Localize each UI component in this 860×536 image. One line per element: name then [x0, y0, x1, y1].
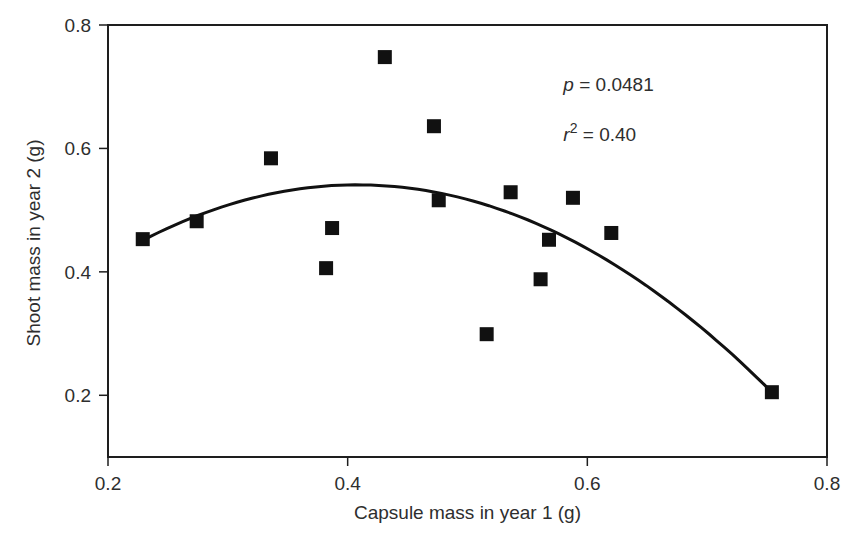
x-tick-label: 0.2 [95, 473, 121, 494]
data-point-marker [534, 272, 548, 286]
y-axis-ticks: 0.20.40.60.8 [65, 15, 108, 406]
data-point-marker [264, 151, 278, 165]
data-point-marker [190, 214, 204, 228]
stats-annotations: p = 0.0481r2 = 0.40 [562, 74, 653, 145]
x-tick-label: 0.6 [574, 473, 600, 494]
plot-frame [108, 25, 827, 457]
y-tick-label: 0.2 [65, 385, 91, 406]
stat-annotation: r2 = 0.40 [563, 120, 636, 145]
data-point-marker [604, 226, 618, 240]
y-axis-label: Shoot mass in year 2 (g) [23, 140, 44, 347]
y-tick-label: 0.8 [65, 15, 91, 36]
quadratic-fit-curve [143, 185, 772, 392]
y-tick-label: 0.6 [65, 138, 91, 159]
data-point-marker [136, 232, 150, 246]
data-point-marker [378, 50, 392, 64]
data-point-marker [319, 261, 333, 275]
data-point-marker [427, 119, 441, 133]
data-points [136, 50, 779, 399]
x-axis-label: Capsule mass in year 1 (g) [354, 502, 581, 523]
data-point-marker [480, 327, 494, 341]
data-point-marker [504, 185, 518, 199]
stat-annotation: p = 0.0481 [562, 74, 653, 95]
data-point-marker [765, 385, 779, 399]
data-point-marker [325, 221, 339, 235]
x-axis-ticks: 0.20.40.60.8 [95, 457, 840, 494]
x-tick-label: 0.8 [814, 473, 840, 494]
data-point-marker [432, 193, 446, 207]
data-point-marker [542, 233, 556, 247]
y-tick-label: 0.4 [65, 262, 92, 283]
data-point-marker [566, 191, 580, 205]
scatter-chart: 0.20.40.60.8 0.20.40.60.8 p = 0.0481r2 =… [0, 0, 860, 536]
x-tick-label: 0.4 [334, 473, 361, 494]
